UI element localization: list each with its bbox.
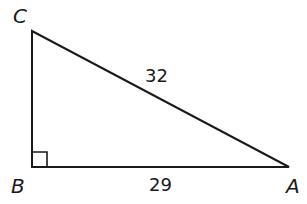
hypotenuse-length-label: 32: [145, 65, 168, 86]
vertex-label-a: A: [284, 174, 300, 198]
base-length-label: 29: [149, 174, 172, 195]
right-angle-marker: [32, 152, 47, 167]
vertex-label-c: C: [13, 4, 27, 28]
triangle-outline: [32, 31, 289, 167]
vertex-label-b: B: [11, 174, 25, 198]
triangle-diagram: C B A 32 29: [0, 0, 307, 204]
